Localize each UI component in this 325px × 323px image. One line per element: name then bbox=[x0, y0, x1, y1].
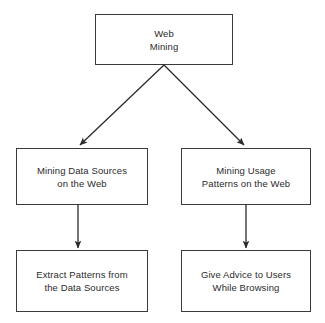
node-give-advice-line2: While Browsing bbox=[213, 281, 280, 294]
node-mining-data-sources: Mining Data Sources on the Web bbox=[16, 148, 148, 205]
web-mining-diagram: Web Mining Mining Data Sources on the We… bbox=[0, 0, 325, 323]
edge-web-mining-to-usage-patterns bbox=[164, 65, 244, 145]
node-extract-patterns: Extract Patterns from the Data Sources bbox=[16, 250, 148, 312]
node-web-mining-line1: Web bbox=[154, 27, 174, 40]
node-web-mining: Web Mining bbox=[95, 14, 233, 65]
node-mining-usage-patterns-line1: Mining Usage bbox=[216, 164, 275, 177]
node-mining-usage-patterns: Mining Usage Patterns on the Web bbox=[181, 148, 311, 205]
node-mining-data-sources-line1: Mining Data Sources bbox=[37, 164, 127, 177]
node-mining-data-sources-line2: on the Web bbox=[57, 177, 106, 190]
node-give-advice: Give Advice to Users While Browsing bbox=[181, 250, 311, 312]
node-extract-patterns-line2: the Data Sources bbox=[44, 281, 119, 294]
node-give-advice-line1: Give Advice to Users bbox=[201, 268, 291, 281]
node-extract-patterns-line1: Extract Patterns from bbox=[36, 268, 127, 281]
node-web-mining-line2: Mining bbox=[150, 40, 179, 53]
node-mining-usage-patterns-line2: Patterns on the Web bbox=[202, 177, 290, 190]
edge-web-mining-to-data-sources bbox=[80, 65, 164, 145]
